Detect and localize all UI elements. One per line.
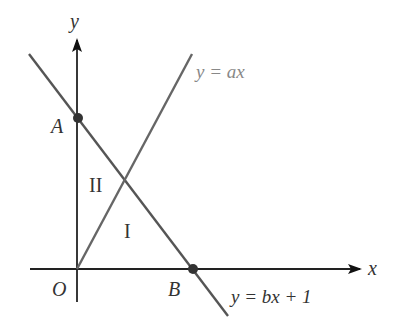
line-ax-equation: y = ax: [194, 61, 245, 82]
point-b-label: B: [168, 278, 180, 300]
x-axis-label: x: [367, 257, 377, 279]
line-bx-plus-1: [29, 54, 228, 316]
y-axis-label: y: [68, 10, 79, 33]
coordinate-diagram: y x O A B y = ax y = bx + 1 II I: [0, 0, 394, 324]
line-ax: [77, 54, 192, 269]
origin-label: O: [52, 278, 66, 300]
point-a-label: A: [49, 115, 64, 137]
region-ii-label: II: [89, 174, 102, 196]
region-i-label: I: [124, 220, 131, 242]
point-a: [73, 113, 83, 123]
line-bx1-equation: y = bx + 1: [229, 286, 312, 307]
point-b: [188, 264, 198, 274]
